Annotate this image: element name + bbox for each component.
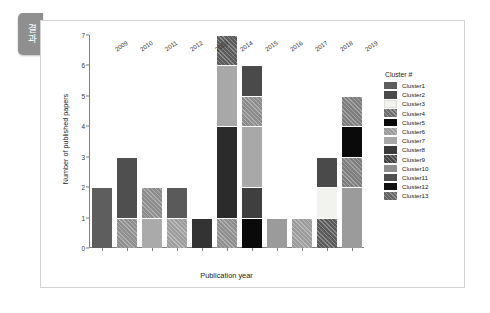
legend-label: Cluster5 <box>402 119 425 126</box>
bar-column[interactable] <box>167 187 187 248</box>
legend-item[interactable]: Cluster3 <box>384 99 462 108</box>
bar-segment[interactable] <box>317 218 337 248</box>
bar-segment[interactable] <box>292 218 312 248</box>
legend-item[interactable]: Cluster6 <box>384 127 462 136</box>
legend-swatch <box>384 146 397 154</box>
legend-label: Cluster7 <box>402 137 425 144</box>
chart-figure: Number of published papers 01234567 2009… <box>41 21 466 289</box>
bar-segment[interactable] <box>342 157 362 187</box>
bar-segment[interactable] <box>342 126 362 156</box>
legend-label: Cluster10 <box>402 165 428 172</box>
legend-swatch <box>384 100 397 108</box>
legend-swatch <box>384 128 397 136</box>
legend-item[interactable]: Cluster12 <box>384 182 462 191</box>
legend-item[interactable]: Cluster11 <box>384 173 462 182</box>
legend-item[interactable]: Cluster2 <box>384 90 462 99</box>
bar-series <box>89 35 364 248</box>
legend-label: Cluster6 <box>402 128 425 135</box>
bar-segment[interactable] <box>92 187 112 248</box>
legend-swatch <box>384 82 397 90</box>
bar-column[interactable] <box>117 157 137 248</box>
legend-title: Cluster # <box>384 71 462 78</box>
legend-label: Cluster13 <box>402 192 428 199</box>
x-axis-title: Publication year <box>89 271 364 280</box>
bar-segment[interactable] <box>217 65 237 126</box>
legend-label: Cluster2 <box>402 91 425 98</box>
legend-swatch <box>384 192 397 200</box>
x-tick-mark <box>252 248 253 251</box>
legend-item[interactable]: Cluster9 <box>384 155 462 164</box>
legend-swatch <box>384 155 397 163</box>
bar-column[interactable] <box>292 218 312 248</box>
legend-item[interactable]: Cluster13 <box>384 191 462 200</box>
legend-items: Cluster1Cluster2Cluster3Cluster4Cluster5… <box>384 81 462 200</box>
bar-segment[interactable] <box>142 218 162 248</box>
x-tick-mark <box>127 248 128 251</box>
legend-label: Cluster8 <box>402 146 425 153</box>
bar-segment[interactable] <box>342 96 362 126</box>
bar-segment[interactable] <box>242 126 262 187</box>
bar-segment[interactable] <box>317 157 337 187</box>
x-tick-mark <box>102 248 103 251</box>
legend-swatch <box>384 183 397 191</box>
bar-segment[interactable] <box>167 187 187 217</box>
bar-segment[interactable] <box>242 96 262 126</box>
y-axis-title: Number of published papers <box>61 0 75 69</box>
legend-swatch <box>384 137 397 145</box>
bar-column[interactable] <box>92 187 112 248</box>
bar-segment[interactable] <box>117 157 137 218</box>
plot-area: 01234567 2009201020112012201320142015201… <box>89 35 364 248</box>
bar-column[interactable] <box>192 218 212 248</box>
bar-segment[interactable] <box>342 187 362 248</box>
bar-segment[interactable] <box>167 218 187 248</box>
x-tick-mark <box>152 248 153 251</box>
side-tab-label: 결과 <box>26 24 36 44</box>
legend-label: Cluster12 <box>402 183 428 190</box>
x-tick-mark <box>277 248 278 251</box>
bar-segment[interactable] <box>117 218 137 248</box>
bar-segment[interactable] <box>217 126 237 217</box>
x-tick-mark <box>202 248 203 251</box>
bar-segment[interactable] <box>242 187 262 217</box>
bar-column[interactable] <box>267 218 287 248</box>
bar-segment[interactable] <box>317 187 337 217</box>
legend-swatch <box>384 174 397 182</box>
legend-swatch <box>384 119 397 127</box>
legend-item[interactable]: Cluster7 <box>384 136 462 145</box>
legend-item[interactable]: Cluster10 <box>384 164 462 173</box>
legend: Cluster # Cluster1Cluster2Cluster3Cluste… <box>384 71 462 200</box>
bar-segment[interactable] <box>192 218 212 248</box>
x-tick-mark <box>327 248 328 251</box>
bar-column[interactable] <box>342 96 362 248</box>
x-tick-mark <box>302 248 303 251</box>
legend-swatch <box>384 165 397 173</box>
bar-segment[interactable] <box>142 187 162 217</box>
bar-segment[interactable] <box>267 218 287 248</box>
bar-column[interactable] <box>242 65 262 248</box>
screenshot-root: 결과 Number of published papers 01234567 2… <box>0 0 490 313</box>
slide-card: Number of published papers 01234567 2009… <box>40 20 465 288</box>
bar-column[interactable] <box>317 157 337 248</box>
legend-label: Cluster11 <box>402 174 428 181</box>
legend-swatch <box>384 109 397 117</box>
legend-label: Cluster1 <box>402 82 425 89</box>
legend-item[interactable]: Cluster4 <box>384 109 462 118</box>
legend-label: Cluster3 <box>402 100 425 107</box>
bar-column[interactable] <box>142 187 162 248</box>
legend-item[interactable]: Cluster1 <box>384 81 462 90</box>
bar-segment[interactable] <box>217 218 237 248</box>
legend-item[interactable]: Cluster5 <box>384 118 462 127</box>
x-tick-label: 2019 <box>363 39 378 53</box>
bar-segment[interactable] <box>242 218 262 248</box>
bar-segment[interactable] <box>242 65 262 95</box>
legend-swatch <box>384 91 397 99</box>
legend-item[interactable]: Cluster8 <box>384 145 462 154</box>
legend-label: Cluster9 <box>402 156 425 163</box>
bar-column[interactable] <box>217 35 237 248</box>
x-tick-mark <box>352 248 353 251</box>
x-tick-mark <box>177 248 178 251</box>
x-tick-mark <box>227 248 228 251</box>
legend-label: Cluster4 <box>402 110 425 117</box>
